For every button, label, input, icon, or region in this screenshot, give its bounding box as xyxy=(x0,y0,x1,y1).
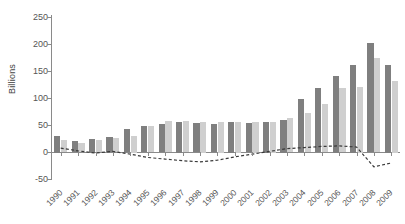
y-tick-label: 100 xyxy=(22,93,48,103)
x-tick-mark xyxy=(339,152,340,156)
x-tick-mark xyxy=(304,152,305,156)
y-tick-label: 0 xyxy=(22,147,48,157)
x-tick-mark xyxy=(270,152,271,156)
x-tick-mark xyxy=(96,152,97,156)
x-tick-mark xyxy=(130,152,131,156)
x-tick-mark xyxy=(357,152,358,156)
y-tick-label: 150 xyxy=(22,66,48,76)
y-tick-label: 250 xyxy=(22,12,48,22)
x-tick-mark xyxy=(252,152,253,156)
y-axis-title: Billions xyxy=(7,44,17,114)
dashed-line-path xyxy=(61,146,392,167)
x-tick-mark xyxy=(391,152,392,156)
y-tick-label: -50 xyxy=(22,174,48,184)
x-tick-mark xyxy=(235,152,236,156)
y-tick-label: 50 xyxy=(22,120,48,130)
x-tick-mark xyxy=(61,152,62,156)
y-tick-label: 200 xyxy=(22,39,48,49)
x-tick-mark xyxy=(217,152,218,156)
y-axis-tick-labels: 250 200 150 100 50 0 -50 xyxy=(20,0,48,224)
x-tick-mark xyxy=(165,152,166,156)
x-tick-mark xyxy=(200,152,201,156)
x-tick-mark xyxy=(374,152,375,156)
x-tick-mark xyxy=(113,152,114,156)
x-tick-mark xyxy=(148,152,149,156)
x-tick-mark xyxy=(287,152,288,156)
x-tick-mark xyxy=(322,152,323,156)
x-tick-mark xyxy=(78,152,79,156)
dashed-line-series xyxy=(52,15,400,180)
chart-container: Billions 250 200 150 100 50 0 -50 199019… xyxy=(0,0,405,224)
x-tick-mark xyxy=(183,152,184,156)
